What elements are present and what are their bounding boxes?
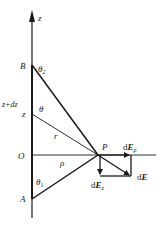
point-B-label: B bbox=[20, 61, 26, 71]
z-plus-dz-label: z+dz bbox=[1, 100, 19, 109]
dE-rho-label: dEρ bbox=[123, 142, 137, 153]
theta2-label: θ2 bbox=[38, 64, 45, 75]
dE-label: dE bbox=[137, 172, 148, 182]
z-label: z bbox=[21, 109, 26, 119]
theta1-label: θ1 bbox=[36, 177, 43, 188]
r-label: r bbox=[54, 131, 58, 141]
dE-vector bbox=[98, 155, 129, 175]
axis-z-label: z bbox=[37, 13, 42, 23]
line-r bbox=[32, 114, 98, 155]
rho-label: ρ bbox=[59, 158, 65, 168]
theta-label: θ bbox=[39, 104, 44, 114]
origin-label: O bbox=[18, 151, 25, 161]
field-diagram: z B θ2 z+dz z θ r O ρ θ1 A P dEρ dE dEz bbox=[0, 0, 162, 232]
z-axis-arrow-icon bbox=[29, 10, 35, 22]
point-A-label: A bbox=[19, 194, 26, 204]
dE-z-label: dEz bbox=[91, 180, 105, 191]
point-P-label: P bbox=[101, 142, 108, 152]
line-A-to-P bbox=[32, 155, 98, 199]
